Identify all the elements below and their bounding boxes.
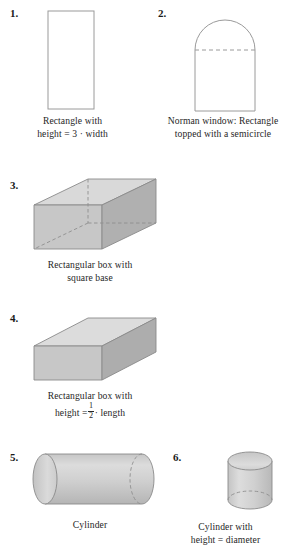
caption-1-line-1: Rectangle with (5, 114, 140, 127)
figure-item-2: 2. Norman window: Rectangle topped with … (145, 0, 295, 145)
caption-4-fraction: 12 (88, 402, 94, 421)
caption-3: Rectangular box with square base (20, 258, 160, 284)
caption-2-line-1: Norman window: Rectangle (153, 114, 293, 127)
caption-5-line-1: Cylinder (20, 518, 160, 531)
item-number-1: 1. (10, 8, 18, 19)
rectangular-box-half-height-shape (28, 312, 162, 384)
figure-item-5: 5. Cylin (0, 440, 180, 548)
caption-6: Cylinder with height = diameter (158, 520, 293, 546)
caption-3-line-2: square base (20, 271, 160, 284)
caption-2: Norman window: Rectangle topped with a s… (153, 114, 293, 140)
figure-item-1: 1. Rectangle with height = 3 · width (0, 0, 150, 145)
item-number-3: 3. (10, 180, 18, 191)
figure-item-4: 4. Rectangular box with height =12· leng… (0, 305, 180, 425)
figure-item-6: 6. Cylin (160, 440, 295, 548)
caption-4-prefix: height = (55, 407, 88, 418)
rectangular-box-square-base-shape (28, 177, 162, 252)
caption-1: Rectangle with height = 3 · width (5, 114, 140, 140)
item-number-6: 6. (173, 452, 181, 463)
caption-1-line-2: height = 3 · width (5, 127, 140, 140)
caption-4-line-2: height =12· length (20, 402, 160, 421)
caption-6-line-1: Cylinder with (158, 520, 293, 533)
caption-2-line-2: topped with a semicircle (153, 127, 293, 140)
caption-6-line-2: height = diameter (158, 533, 293, 546)
item-number-4: 4. (10, 313, 18, 324)
item-number-2: 2. (158, 8, 166, 19)
cylinder-horizontal-shape (30, 448, 160, 510)
item-number-5: 5. (10, 452, 18, 463)
fraction-denominator: 2 (88, 412, 94, 421)
figure-item-3: 3. Rectangular box with square base (0, 172, 180, 292)
norman-window-shape (193, 10, 257, 112)
caption-5: Cylinder (20, 518, 160, 531)
cylinder-vertical-shape (224, 450, 276, 512)
caption-4: Rectangular box with height =12· length (20, 389, 160, 421)
rectangle-shape (47, 10, 95, 110)
figure-sheet: 1. Rectangle with height = 3 · width 2. … (0, 0, 295, 548)
caption-3-line-1: Rectangular box with (20, 258, 160, 271)
fraction-numerator: 1 (88, 402, 94, 411)
caption-4-tail: · length (95, 407, 125, 418)
